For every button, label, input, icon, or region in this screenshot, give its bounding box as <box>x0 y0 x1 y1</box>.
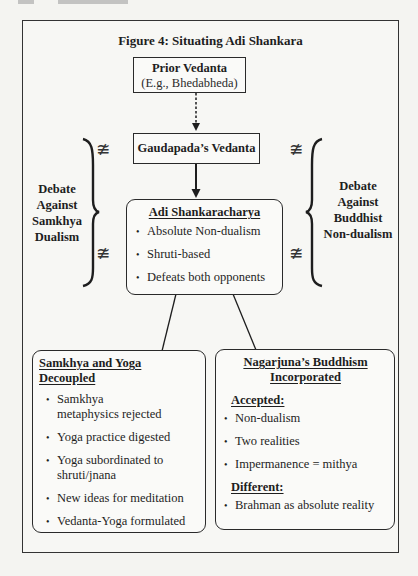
not-equal-icon: ≇ <box>289 245 303 262</box>
label-line: Debate <box>320 178 396 194</box>
list-item: Yoga subordinated to shruti/jnana <box>45 453 167 483</box>
samkhya-yoga-title: Samkhya and Yoga Decoupled <box>39 356 199 386</box>
label-line: Dualism <box>28 229 86 245</box>
samkhya-yoga-bullets: Samkhya metaphysics rejected Yoga practi… <box>39 392 199 529</box>
accepted-bullets: Non-dualism Two realities Impermanence =… <box>223 411 388 472</box>
list-item: Non-dualism <box>223 411 388 426</box>
prior-vedanta-subtitle: (E.g., Bhedabheda) <box>134 76 245 91</box>
title-part: Decoupled <box>39 371 95 385</box>
solid-arrow-head <box>192 189 201 198</box>
gaudapada-title: Gaudapada’s Vedanta <box>134 134 259 162</box>
prior-vedanta-title: Prior Vedanta <box>134 61 245 76</box>
list-item: Vedanta-Yoga formulated <box>45 514 199 529</box>
gaudapada-box: Gaudapada’s Vedanta <box>133 133 260 164</box>
not-equal-icon: ≇ <box>96 141 110 158</box>
left-debate-label: Debate Against Samkhya Dualism <box>28 181 86 245</box>
accepted-label: Accepted: <box>231 393 388 408</box>
list-item: New ideas for meditation <box>45 491 199 506</box>
label-line: Against <box>28 197 86 213</box>
list-item: Impermanence = mithya <box>223 457 388 472</box>
title-part: Samkhya and Yoga <box>39 356 141 370</box>
nagarjuna-title-line1: Nagarjuna’s Buddhism <box>223 355 388 370</box>
not-equal-icon: ≇ <box>96 245 110 262</box>
shankara-box: Adi Shankaracharya Absolute Non-dualism … <box>126 199 283 295</box>
dotted-arrow-head <box>192 123 200 131</box>
label-line: Non-dualism <box>320 226 396 242</box>
right-debate-label: Debate Against Buddhist Non-dualism <box>320 178 396 242</box>
branch-line-right <box>233 294 256 350</box>
not-equal-icon: ≇ <box>289 141 303 158</box>
list-item: Brahman as absolute reality <box>223 498 388 513</box>
nagarjuna-title-line2: Incorporated <box>223 370 388 385</box>
samkhya-yoga-box: Samkhya and Yoga Decoupled Samkhya metap… <box>32 350 206 533</box>
label-line: Debate <box>28 181 86 197</box>
shankara-title: Adi Shankaracharya <box>127 205 282 220</box>
list-item: Shruti-based <box>135 247 282 262</box>
list-item: Two realities <box>223 434 388 449</box>
list-item: Samkhya metaphysics rejected <box>45 392 167 422</box>
shankara-bullets: Absolute Non-dualism Shruti-based Defeat… <box>135 224 282 285</box>
list-item: Absolute Non-dualism <box>135 224 282 239</box>
different-bullets: Brahman as absolute reality <box>223 498 388 513</box>
label-line: Samkhya <box>28 213 86 229</box>
label-line: Against <box>320 194 396 210</box>
list-item: Defeats both opponents <box>135 270 282 285</box>
label-line: Buddhist <box>320 210 396 226</box>
nagarjuna-box: Nagarjuna’s Buddhism Incorporated Accept… <box>215 349 395 530</box>
list-item: Yoga practice digested <box>45 430 199 445</box>
branch-line-left <box>162 294 176 351</box>
different-label: Different: <box>231 480 388 495</box>
prior-vedanta-box: Prior Vedanta (E.g., Bhedabheda) <box>133 57 246 93</box>
